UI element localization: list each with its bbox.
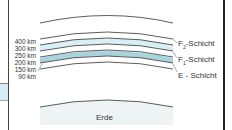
layer-label-f2: F2-Schicht (178, 39, 215, 52)
earth-label: Erde (96, 113, 113, 122)
layer-label-f1: F1-Schicht (178, 55, 215, 68)
altitude-label-250: 250 km (8, 52, 36, 59)
altitude-label-200: 200 km (8, 59, 36, 66)
layer-label-e: E - Schicht (178, 71, 217, 80)
altitude-label-300: 300 km (8, 45, 36, 52)
altitude-label-90: 90 km (8, 73, 36, 80)
altitude-label-150: 150 km (8, 66, 36, 73)
altitude-label-400: 400 km (8, 38, 36, 45)
